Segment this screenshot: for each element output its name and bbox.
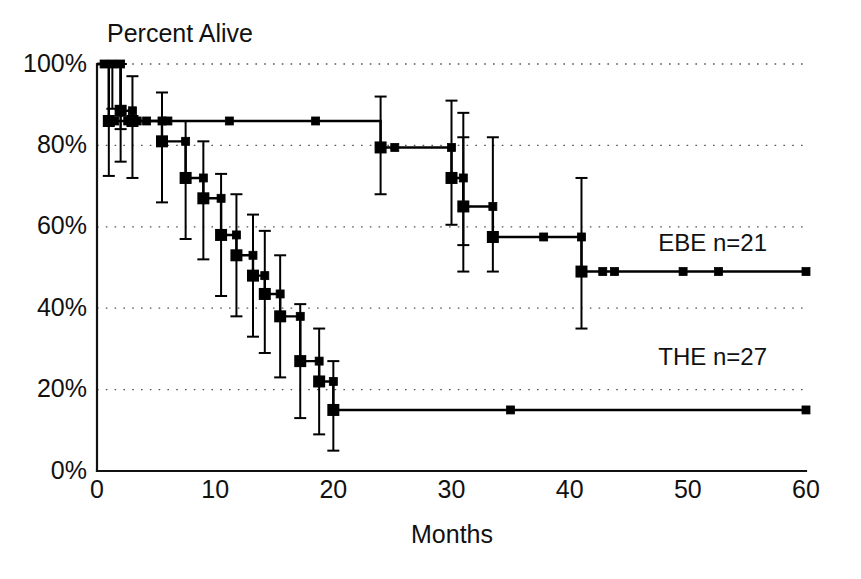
x-tick-label-20: 20: [319, 475, 347, 503]
y-tick-label-80%: 80%: [37, 130, 87, 158]
censor-marker: [540, 233, 548, 241]
event-marker: [247, 270, 259, 282]
event-marker: [487, 231, 499, 243]
censor-marker: [158, 117, 166, 125]
event-marker: [230, 249, 242, 261]
legend-label-ebe: EBE n=21: [658, 229, 767, 256]
event-marker: [375, 141, 387, 153]
survival-chart: 0%20%40%60%80%100% 0102030405060 EBE n=2…: [0, 0, 861, 579]
x-tick-label-0: 0: [90, 475, 104, 503]
event-marker: [180, 172, 192, 184]
censor-marker: [802, 268, 810, 276]
kaplan-meier-plot: 0%20%40%60%80%100% 0102030405060 EBE n=2…: [0, 0, 861, 579]
censor-marker: [249, 251, 257, 259]
censor-marker: [217, 194, 225, 202]
censor-marker: [329, 377, 337, 385]
censor-marker: [489, 202, 497, 210]
censor-marker: [296, 312, 304, 320]
legend-label-the: THE n=27: [658, 343, 767, 370]
event-marker: [274, 310, 286, 322]
censor-marker: [459, 174, 467, 182]
event-marker: [327, 404, 339, 416]
y-tick-label-40%: 40%: [37, 293, 87, 321]
x-tick-label-60: 60: [792, 475, 820, 503]
censor-marker: [182, 137, 190, 145]
x-axis-tick-labels: 0102030405060: [90, 475, 820, 503]
y-tick-label-60%: 60%: [37, 211, 87, 239]
legend-group: EBE n=21THE n=27: [658, 229, 767, 370]
censor-marker: [507, 406, 515, 414]
censor-marker: [232, 231, 240, 239]
event-marker: [215, 229, 227, 241]
censor-marker: [448, 143, 456, 151]
censor-marker: [108, 60, 116, 68]
censor-marker: [128, 107, 136, 115]
censor-marker: [312, 117, 320, 125]
x-axis-title: Months: [411, 520, 493, 548]
censor-marker: [225, 117, 233, 125]
event-marker: [313, 375, 325, 387]
y-axis-tick-labels: 0%20%40%60%80%100%: [23, 49, 87, 484]
censor-marker: [611, 268, 619, 276]
x-tick-label-10: 10: [201, 475, 229, 503]
x-tick-label-50: 50: [674, 475, 702, 503]
event-marker: [103, 115, 115, 127]
y-tick-label-0%: 0%: [51, 456, 87, 484]
y-tick-label-100%: 100%: [23, 49, 87, 77]
censor-marker: [199, 174, 207, 182]
event-marker: [575, 266, 587, 278]
censor-marker: [261, 272, 269, 280]
event-marker: [115, 105, 127, 117]
censor-marker: [276, 290, 284, 298]
censor-marker: [599, 268, 607, 276]
censor-marker: [391, 143, 399, 151]
y-axis-title: Percent Alive: [107, 19, 253, 47]
y-tick-label-20%: 20%: [37, 374, 87, 402]
censor-marker: [100, 60, 108, 68]
x-tick-label-40: 40: [556, 475, 584, 503]
censor-marker: [715, 268, 723, 276]
x-tick-label-30: 30: [438, 475, 466, 503]
censor-marker: [802, 406, 810, 414]
event-marker: [294, 355, 306, 367]
censor-marker: [679, 268, 687, 276]
censor-marker: [117, 60, 125, 68]
event-marker: [126, 115, 138, 127]
censor-marker: [315, 357, 323, 365]
event-marker: [197, 192, 209, 204]
event-marker: [259, 288, 271, 300]
censor-marker: [577, 233, 585, 241]
event-marker: [446, 172, 458, 184]
event-marker: [156, 135, 168, 147]
event-marker: [457, 200, 469, 212]
